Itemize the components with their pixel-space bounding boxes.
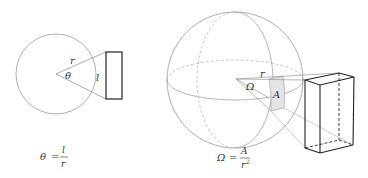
label-radius: r	[70, 55, 76, 66]
label-area: A	[272, 89, 280, 100]
formula-denominator: r	[61, 159, 66, 169]
solid-angle-figure: r Ω A	[167, 12, 354, 153]
object-box	[305, 73, 354, 153]
formula-numerator: A	[240, 146, 248, 156]
formula-lhs: θ	[40, 151, 46, 162]
formula-numerator: l	[62, 145, 65, 155]
solid-angle-formula: Ω = A r 2	[216, 146, 250, 170]
formula-lhs: Ω	[216, 152, 225, 163]
object-rect	[106, 52, 122, 99]
formula-eq: =	[51, 151, 59, 162]
label-arc-length: l	[96, 72, 99, 83]
ray-upper	[56, 52, 106, 74]
meridian-back	[197, 12, 235, 148]
plane-angle-figure: r θ l	[16, 34, 122, 114]
plane-angle-formula: θ = l r	[40, 145, 68, 169]
formula-exponent: 2	[245, 158, 250, 165]
label-omega: Ω	[245, 81, 254, 92]
formula-eq: =	[229, 152, 237, 163]
meridian-front	[235, 12, 273, 148]
label-theta: θ	[65, 70, 71, 81]
ray-ext-mid	[284, 108, 353, 145]
angle-diagram: r θ l θ = l r	[0, 0, 368, 178]
